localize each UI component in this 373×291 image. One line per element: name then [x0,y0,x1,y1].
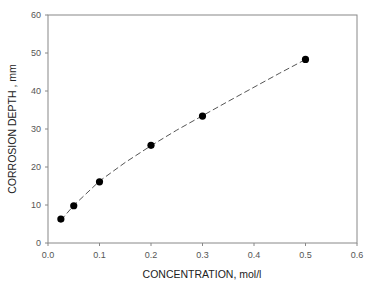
y-axis-title: CORROSION DEPTH , mm [6,64,18,194]
y-tick-label: 10 [31,200,41,210]
x-tick-label: 0.0 [42,250,55,260]
y-tick-label: 40 [31,86,41,96]
y-tick-label: 0 [36,238,41,248]
x-tick-label: 0.2 [145,250,158,260]
y-tick-label: 50 [31,48,41,58]
data-point [96,178,103,185]
x-axis-title: CONCENTRATION, mol/l [143,268,262,280]
data-points [57,56,309,223]
data-point [70,202,77,209]
data-point [199,112,206,119]
plot-frame [48,15,357,243]
x-tick-label: 0.6 [351,250,364,260]
fit-curve [61,60,306,221]
y-tick-label: 30 [31,124,41,134]
x-tick-label: 0.1 [93,250,106,260]
data-point [147,142,154,149]
x-axis-ticks: 0.00.10.20.30.40.50.6 [42,243,364,260]
x-tick-label: 0.5 [299,250,312,260]
data-point [57,215,64,222]
y-tick-label: 60 [31,10,41,20]
x-tick-label: 0.3 [196,250,209,260]
x-tick-label: 0.4 [248,250,261,260]
y-axis-ticks: 0102030405060 [31,10,48,248]
chart: 0102030405060 0.00.10.20.30.40.50.6 CONC… [0,0,373,291]
y-tick-label: 20 [31,162,41,172]
data-point [302,56,309,63]
